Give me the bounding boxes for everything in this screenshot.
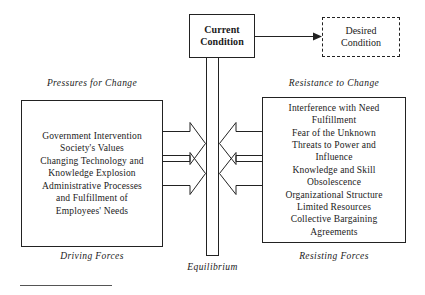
desired-condition-line1: Desired — [345, 25, 376, 36]
force-list-item: Collective Bargaining Agreements — [263, 213, 405, 238]
resisting-forces-list: Interference with Need FulfillmentFear o… — [263, 102, 405, 238]
force-list-item: Administrative Processes and Fulfillment… — [22, 180, 162, 217]
desired-condition-label: Desired Condition — [341, 25, 381, 49]
current-to-desired-arrow — [255, 33, 322, 41]
driving-forces-list: Government InterventionSociety's ValuesC… — [22, 130, 162, 217]
resistance-to-change-heading: Resistance to Change — [262, 78, 406, 88]
driving-forces-footer: Driving Forces — [21, 251, 163, 261]
current-condition-line2: Condition — [200, 36, 244, 47]
resisting-forces-footer: Resisting Forces — [262, 251, 406, 261]
force-list-item: Government Intervention — [22, 130, 162, 142]
driving-forces-box: Government InterventionSociety's ValuesC… — [21, 100, 163, 247]
footnote-separator-rule — [20, 285, 112, 286]
resisting-forces-box: Interference with Need FulfillmentFear o… — [262, 97, 406, 243]
force-list-item: Limited Resources — [263, 201, 405, 213]
resisting-force-arrow-upper — [220, 123, 263, 165]
current-condition-label: Current Condition — [200, 24, 244, 48]
pressures-for-change-heading: Pressures for Change — [21, 78, 163, 88]
driving-force-arrow-upper — [163, 123, 206, 165]
force-list-item: Changing Technology and Knowledge Explos… — [22, 155, 162, 180]
force-list-item: Knowledge and Skill Obsolescence — [263, 164, 405, 189]
force-field-diagram: Current Condition Desired Condition Pres… — [0, 0, 425, 295]
equilibrium-label: Equilibrium — [160, 262, 265, 272]
force-list-item: Fear of the Unknown — [263, 127, 405, 139]
current-condition-box: Current Condition — [189, 14, 255, 58]
force-list-item: Threats to Power and Influence — [263, 139, 405, 164]
desired-condition-line2: Condition — [341, 37, 381, 48]
desired-condition-box: Desired Condition — [322, 17, 400, 57]
equilibrium-bar — [207, 58, 219, 256]
driving-force-arrow-lower — [163, 153, 206, 195]
resisting-force-arrow-lower — [220, 153, 263, 195]
force-list-item: Interference with Need Fulfillment — [263, 102, 405, 127]
force-list-item: Society's Values — [22, 142, 162, 154]
force-list-item: Organizational Structure — [263, 189, 405, 201]
current-condition-line1: Current — [204, 24, 240, 35]
